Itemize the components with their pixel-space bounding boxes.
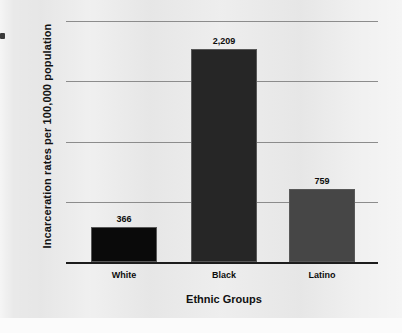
bar-value-label: 2,209: [184, 36, 264, 46]
gridline: [70, 21, 378, 22]
y-axis-title: Incarceration rates per 100,000 populati…: [41, 11, 53, 261]
bar-value-label: 366: [84, 214, 164, 224]
bar-black: [191, 49, 257, 262]
x-axis-category-label: Black: [179, 270, 269, 280]
bar-chart-figure: Incarceration rates per 100,000 populati…: [0, 0, 402, 333]
edge-artifact-mark: [0, 33, 5, 39]
y-axis-tick: [66, 81, 70, 82]
y-axis-tick: [66, 142, 70, 143]
y-axis-tick: [66, 21, 70, 22]
bar-latino: [289, 189, 355, 262]
bar-white: [91, 227, 157, 262]
x-axis-line: [66, 262, 378, 264]
x-axis-title: Ethnic Groups: [70, 293, 378, 305]
plot-area: 06251,2501,8752,500 366White2,209Black75…: [70, 21, 378, 262]
page-bottom-margin: [0, 318, 402, 333]
x-axis-category-label: White: [79, 270, 169, 280]
y-axis-tick: [66, 202, 70, 203]
bar-value-label: 759: [282, 176, 362, 186]
x-axis-category-label: Latino: [277, 270, 367, 280]
